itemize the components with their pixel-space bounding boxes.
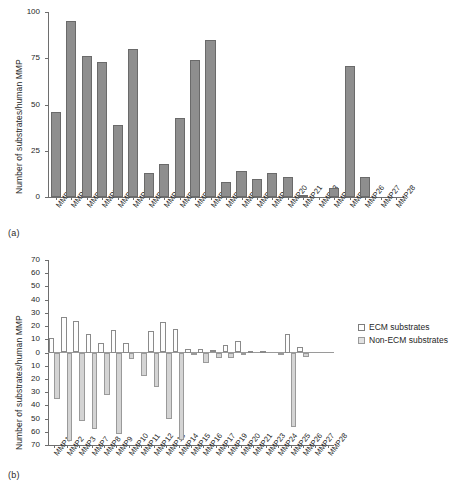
legend-item-ecm: ECM substrates xyxy=(358,322,448,332)
panel-b-y-tick-mark xyxy=(45,353,48,354)
panel-a-bar xyxy=(267,173,277,197)
panel-a-bar xyxy=(190,60,200,197)
panel-b-bar-nonecm xyxy=(141,353,147,377)
legend-swatch-ecm-icon xyxy=(358,324,365,331)
panel-b-y-tick-mark xyxy=(45,366,48,367)
panel-b-y-tick-mark xyxy=(45,445,48,446)
panel-b-y-tick-label: 50 xyxy=(18,415,40,423)
panel-a-tag: (a) xyxy=(8,228,20,238)
panel-b-tag: (b) xyxy=(8,470,20,480)
panel-b-y-tick-label: 20 xyxy=(18,322,40,330)
panel-b-bar-ecm xyxy=(86,334,92,353)
legend-label: ECM substrates xyxy=(369,322,429,332)
panel-a-bar xyxy=(283,177,293,197)
panel-b-bar-nonecm xyxy=(228,353,234,358)
panel-a-y-tick-mark xyxy=(45,12,48,13)
panel-b-plot-area: 70605040302010010203040506070MMP1MMP2MMP… xyxy=(48,260,334,446)
panel-b-bar-nonecm xyxy=(216,353,222,358)
panel-b-y-tick-mark xyxy=(45,379,48,380)
panel-b-bar-nonecm xyxy=(278,353,284,356)
panel-a-y-tick-label: 25 xyxy=(18,147,40,155)
panel-b-y-tick-mark xyxy=(45,300,48,301)
panel-b-y-tick-label: 60 xyxy=(18,269,40,277)
panel-b-legend: ECM substratesNon-ECM substrates xyxy=(358,322,448,348)
panel-b-bar-ecm xyxy=(148,331,154,352)
panel-b-bar-nonecm xyxy=(191,353,197,356)
panel-b-bar-ecm xyxy=(235,341,241,353)
panel-b-y-axis xyxy=(48,260,49,446)
panel-b-y-tick-label: 70 xyxy=(18,256,40,264)
panel-b-y-tick-mark xyxy=(45,392,48,393)
panel-b-bar-nonecm xyxy=(67,353,73,442)
legend-item-non-ecm: Non-ECM substrates xyxy=(358,335,448,345)
panel-a-bar xyxy=(159,164,169,197)
panel-b-y-tick-mark xyxy=(45,273,48,274)
panel-b-y-tick-label: 10 xyxy=(18,335,40,343)
panel-b-bar-ecm xyxy=(73,321,79,353)
panel-a-y-tick-mark xyxy=(45,58,48,59)
panel-b-bar-ecm xyxy=(248,351,254,353)
panel-a-y-axis xyxy=(48,12,49,198)
panel-a-bar xyxy=(82,56,92,197)
panel-a-bar xyxy=(175,118,185,198)
panel-a-y-tick-mark xyxy=(45,105,48,106)
panel-b-y-tick-label: 30 xyxy=(18,388,40,396)
panel-a-bar xyxy=(66,21,76,197)
panel-b-bar-ecm xyxy=(49,338,55,353)
panel-b-y-tick-label: 60 xyxy=(18,428,40,436)
panel-a-bar xyxy=(205,40,215,197)
panel-a-bar xyxy=(252,179,262,198)
panel-b-bar-ecm xyxy=(98,343,104,352)
panel-a-y-tick-mark xyxy=(45,151,48,152)
panel-a-bar xyxy=(236,171,246,197)
panel-b-bar-nonecm xyxy=(303,353,309,357)
panel-b-y-tick-label: 30 xyxy=(18,309,40,317)
panel-b-y-tick-mark xyxy=(45,405,48,406)
panel-b-bar-nonecm xyxy=(54,353,60,399)
panel-b-y-tick-mark xyxy=(45,286,48,287)
panel-b-y-tick-label: 0 xyxy=(18,349,40,357)
panel-a-plot-area: 0255075100MMP1MMP2MMP3MMP7MMP8MMP9MMP10M… xyxy=(48,12,404,198)
panel-b-y-tick-mark xyxy=(45,432,48,433)
panel-b-bar-nonecm xyxy=(241,353,247,355)
panel-b-y-tick-label: 20 xyxy=(18,375,40,383)
panel-b-bar-ecm xyxy=(61,317,67,353)
panel-a: (a) Number of substrates/human MMP 02550… xyxy=(0,0,464,248)
panel-b-y-tick-label: 70 xyxy=(18,441,40,449)
panel-b-bar-nonecm xyxy=(92,353,98,430)
panel-b-y-tick-label: 10 xyxy=(18,362,40,370)
legend-swatch-non-ecm-icon xyxy=(358,337,365,344)
panel-a-y-tick-mark xyxy=(45,197,48,198)
panel-a-bar xyxy=(128,49,138,197)
panel-b-bar-nonecm xyxy=(129,353,135,360)
panel-b-y-tick-mark xyxy=(45,419,48,420)
panel-b-bar-nonecm xyxy=(154,353,160,387)
panel-b-bar-nonecm xyxy=(104,353,110,395)
panel-a-bar xyxy=(97,62,107,197)
panel-b-bar-ecm xyxy=(223,345,229,353)
panel-a-y-tick-label: 75 xyxy=(18,54,40,62)
panel-b-bar-nonecm xyxy=(203,353,209,364)
panel-a-y-tick-label: 100 xyxy=(18,8,40,16)
panel-b-bar-ecm xyxy=(123,343,129,352)
panel-b-bar-nonecm xyxy=(291,353,297,427)
panel-b-bar-nonecm xyxy=(116,353,122,435)
panel-b-y-tick-label: 40 xyxy=(18,401,40,409)
panel-b-y-tick-label: 50 xyxy=(18,282,40,290)
panel-b-bar-ecm xyxy=(173,329,179,353)
panel-a-y-tick-label: 0 xyxy=(18,193,40,201)
panel-b-y-tick-mark xyxy=(45,313,48,314)
panel-b-bar-ecm xyxy=(111,330,117,353)
panel-a-bar xyxy=(360,177,370,197)
panel-a-bar xyxy=(113,125,123,197)
panel-b-bar-ecm xyxy=(260,351,266,353)
panel-a-bar xyxy=(345,66,355,197)
panel-b: (b) Number of substrates/human MMP 70605… xyxy=(0,248,464,495)
panel-b-bar-ecm xyxy=(160,322,166,352)
panel-b-bar-nonecm xyxy=(166,353,172,419)
panel-b-bar-nonecm xyxy=(79,353,85,422)
panel-b-y-tick-mark xyxy=(45,260,48,261)
panel-b-bar-nonecm xyxy=(179,353,185,440)
panel-b-y-tick-label: 40 xyxy=(18,296,40,304)
panel-b-bar-ecm xyxy=(285,334,291,353)
